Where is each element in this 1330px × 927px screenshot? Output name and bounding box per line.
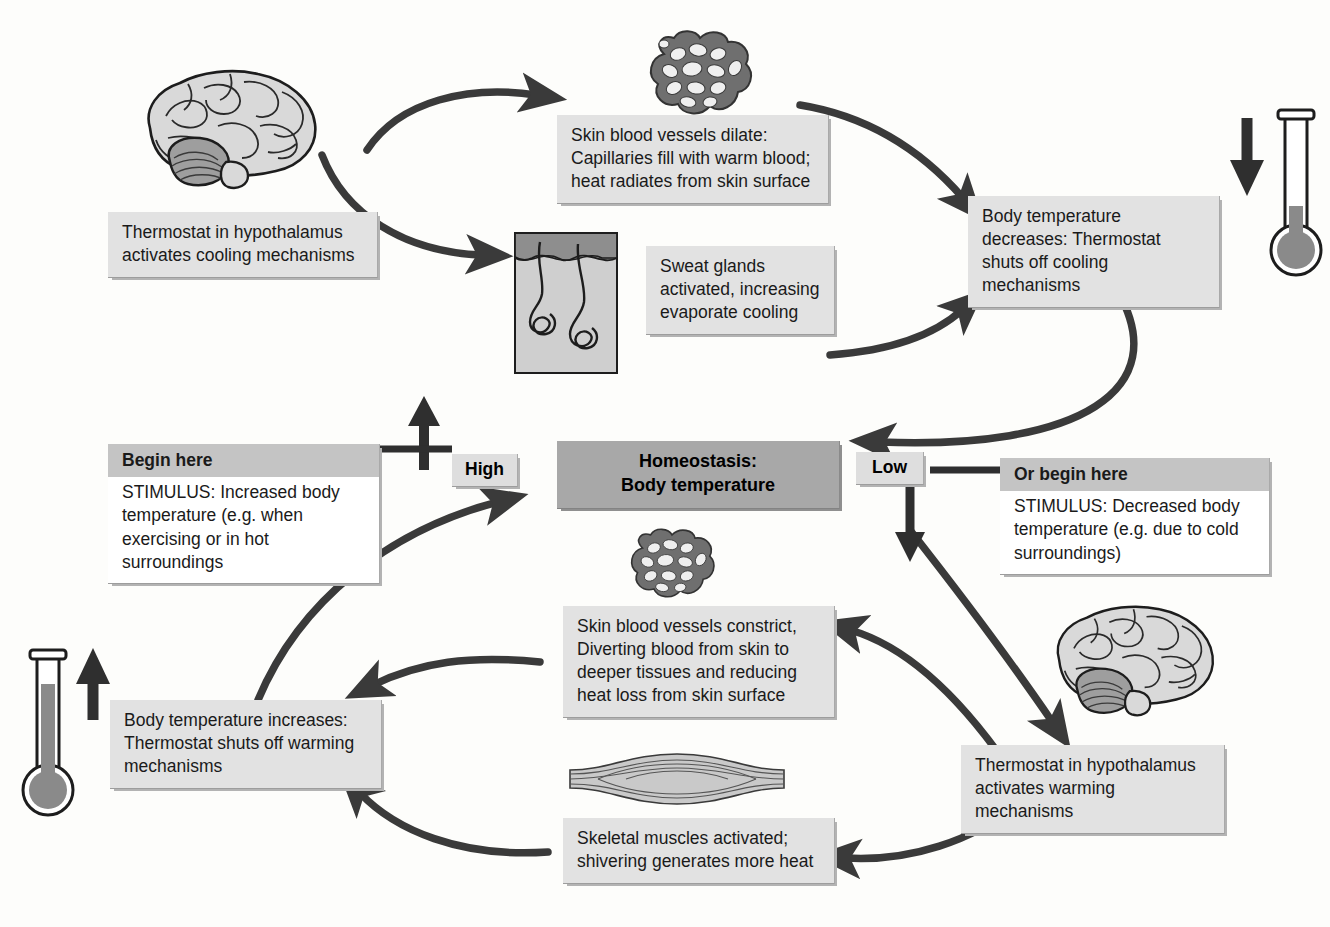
tag-low: Low <box>856 452 924 485</box>
arrow-thermometer-down <box>1230 118 1264 196</box>
arrow-hypothalamus-to-vessels <box>367 92 536 150</box>
stimulus-hot-header: Begin here <box>108 444 379 477</box>
box-sweat-glands: Sweat glands activated, increasing evapo… <box>646 246 835 335</box>
box-hypothalamus-cooling: Thermostat in hypothalamus activates coo… <box>108 212 378 278</box>
box-hypothalamus-warming: Thermostat in hypothalamus activates war… <box>961 745 1225 834</box>
box-temp-increases: Body temperature increases: Thermostat s… <box>110 700 382 789</box>
thermoregulation-diagram: Thermostat in hypothalamus activates coo… <box>0 0 1330 927</box>
stimulus-hot-body: STIMULUS: Increased body temperature (e.… <box>108 477 379 583</box>
capillary-network-illustration <box>640 26 760 121</box>
skeletal-muscle-illustration <box>568 748 786 810</box>
thermometer-rising-illustration <box>20 648 82 828</box>
arrow-low-down <box>895 482 925 562</box>
box-stimulus-cold: Or begin here STIMULUS: Decreased body t… <box>1000 458 1270 575</box>
homeostasis-line-2: Body temperature <box>567 474 829 498</box>
box-skeletal-muscles: Skeletal muscles activated; shivering ge… <box>563 818 835 884</box>
sweat-gland-skin-illustration <box>514 232 618 374</box>
arrow-temp-decrease-to-homeostasis <box>880 290 1134 443</box>
stimulus-cold-header: Or begin here <box>1000 458 1269 491</box>
arrow-sweat-to-temp-decrease <box>830 310 962 355</box>
tag-high: High <box>452 454 518 487</box>
brain-illustration <box>1020 600 1220 720</box>
homeostasis-line-1: Homeostasis: <box>567 450 829 474</box>
arrow-constrict-to-temp-increase <box>373 659 540 685</box>
box-vessels-dilate: Skin blood vessels dilate: Capillaries f… <box>557 115 829 204</box>
box-stimulus-hot: Begin here STIMULUS: Increased body temp… <box>108 444 380 584</box>
box-temp-decreases: Body temperature decreases: Thermostat s… <box>968 196 1220 308</box>
brain-illustration <box>108 66 323 191</box>
box-homeostasis: Homeostasis: Body temperature <box>557 441 840 509</box>
thermometer-falling-illustration <box>1268 108 1330 288</box>
box-vessels-constrict: Skin blood vessels constrict, Diverting … <box>563 606 835 718</box>
stimulus-cold-body: STIMULUS: Decreased body temperature (e.… <box>1000 491 1269 574</box>
arrow-high-up <box>408 396 440 470</box>
arrow-muscles-to-temp-increase <box>360 793 548 853</box>
capillary-network-illustration <box>622 525 722 603</box>
